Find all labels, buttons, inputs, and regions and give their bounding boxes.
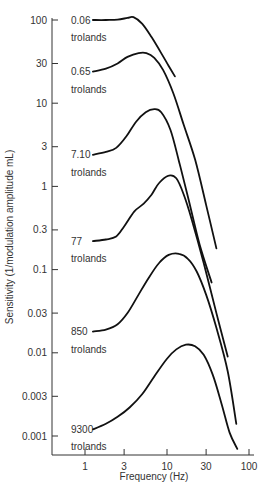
curve-label-value: 850 [71,326,88,337]
y-axis-title: Sensitivity (1/modulation amplitude mL) [4,150,15,325]
curve-850-trolands [93,253,236,423]
x-tick-label: 30 [201,461,213,472]
x-axis-title: Frequency (Hz) [120,471,189,482]
sensitivity-chart: 1003010310.30.10.030.010.0030.001 131030… [0,0,262,493]
y-tick-label: 0.1 [33,264,47,275]
curve-label-value: 7.10 [71,149,91,160]
curve-7_10-trolands [93,109,212,282]
curves [93,17,237,449]
axes: 1003010310.30.10.030.010.0030.001 131030… [22,15,258,473]
curve-label-unit: trolands [71,344,107,355]
y-tick-label: 0.3 [33,224,47,235]
curve-label-value: 0.06 [71,15,91,26]
y-tick-label: 30 [36,58,48,69]
y-tick-label: 10 [36,98,48,109]
y-tick-label: 0.01 [28,347,48,358]
x-tick-label: 1 [82,461,88,472]
y-tick-label: 0.001 [22,431,47,442]
curve-9300-trolands [93,344,237,448]
curve-label-value: 77 [71,236,83,247]
y-tick-label: 100 [30,15,47,26]
curve-label-value: 9300 [71,424,94,435]
y-tick-label: 3 [41,141,47,152]
curve-labels: 0.06trolands0.65trolands7.10trolands77tr… [71,15,107,453]
y-tick-label: 0.03 [28,308,48,319]
x-tick-label: 100 [241,461,258,472]
y-ticks: 1003010310.30.10.030.010.0030.001 [22,15,58,442]
curve-label-unit: trolands [71,441,107,452]
y-tick-label: 0.003 [22,391,47,402]
curve-label-unit: trolands [71,253,107,264]
x-ticks: 131030100 [82,449,258,472]
curve-77-trolands [93,175,228,356]
curve-label-unit: trolands [71,167,107,178]
curve-label-value: 0.65 [71,66,91,77]
y-tick-label: 1 [41,181,47,192]
curve-label-unit: trolands [71,32,107,43]
curve-label-unit: trolands [71,84,107,95]
